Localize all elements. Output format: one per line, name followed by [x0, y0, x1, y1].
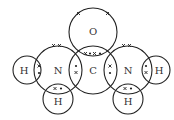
label-oxygen: O [89, 26, 97, 37]
atom-shells [13, 8, 170, 114]
label-nitrogen-left: N [54, 65, 63, 76]
n-left-h-bottom-bond-electrons [54, 87, 63, 90]
label-carbon: C [89, 65, 97, 76]
urea-diagram: O C N N H H H H [0, 0, 174, 120]
diagram-canvas: O C N N H H H H [0, 0, 174, 120]
label-hydrogen-bottom-left: H [54, 96, 63, 107]
n-left-c-bond-electrons [75, 65, 78, 74]
label-hydrogen-left: H [20, 65, 29, 76]
n-right-h-bottom-bond-electrons [124, 87, 133, 90]
c-o-double-bond-electrons [84, 52, 101, 55]
oxygen-lone-pairs [77, 12, 109, 15]
n-right-h-bond-electrons [145, 65, 148, 74]
c-n-right-bond-electrons [109, 65, 112, 75]
label-nitrogen-right: N [124, 65, 133, 76]
label-hydrogen-right: H [155, 65, 164, 76]
label-hydrogen-bottom-right: H [124, 96, 133, 107]
